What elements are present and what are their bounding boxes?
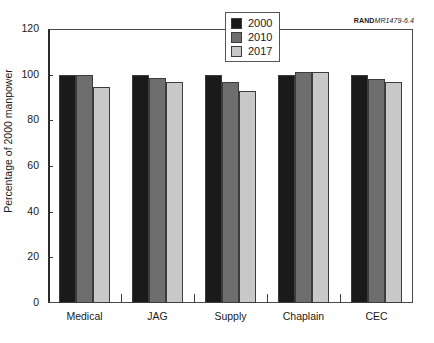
bar-chart-figure: RANDMR1479-6.4 Percentage of 2000 manpow… bbox=[0, 0, 434, 343]
x-axis-label: Supply bbox=[194, 310, 267, 322]
legend-swatch-2017 bbox=[231, 46, 242, 57]
bar bbox=[385, 82, 402, 303]
bar bbox=[368, 79, 385, 303]
x-axis-label: JAG bbox=[121, 310, 194, 322]
y-tick-label: 20 bbox=[27, 250, 39, 262]
legend-item: 2010 bbox=[231, 30, 272, 44]
rand-figure-number: MR1479-6.4 bbox=[374, 17, 414, 24]
bar bbox=[59, 75, 76, 303]
x-axis-label: Chaplain bbox=[267, 310, 340, 322]
legend-swatch-2010 bbox=[231, 32, 242, 43]
legend-item: 2000 bbox=[231, 16, 272, 30]
bar bbox=[205, 75, 222, 303]
x-axis-group-separator bbox=[267, 294, 268, 303]
bar-group bbox=[205, 29, 256, 303]
legend-label-2017: 2017 bbox=[248, 46, 272, 57]
legend-item: 2017 bbox=[231, 44, 272, 58]
bar-group bbox=[278, 29, 329, 303]
bar bbox=[76, 75, 93, 303]
bar bbox=[149, 78, 166, 303]
y-tick-label: 120 bbox=[21, 22, 39, 34]
bar bbox=[295, 72, 312, 303]
y-tick-label: 40 bbox=[27, 205, 39, 217]
y-axis-title: Percentage of 2000 manpower bbox=[2, 0, 14, 291]
bar bbox=[351, 75, 368, 303]
rand-source-credit: RANDMR1479-6.4 bbox=[354, 17, 414, 24]
bar bbox=[239, 91, 256, 303]
legend-swatch-2000 bbox=[231, 18, 242, 29]
bar-group bbox=[132, 29, 183, 303]
legend-label-2010: 2010 bbox=[248, 32, 272, 43]
x-axis-group-separator bbox=[340, 294, 341, 303]
bar bbox=[312, 72, 329, 303]
y-tick-label: 100 bbox=[21, 68, 39, 80]
y-tick-label: 80 bbox=[27, 113, 39, 125]
y-tick-label: 60 bbox=[27, 159, 39, 171]
bar-group bbox=[59, 29, 110, 303]
bars-layer bbox=[48, 29, 413, 303]
bar bbox=[132, 75, 149, 303]
bar-group bbox=[351, 29, 402, 303]
bar bbox=[222, 82, 239, 303]
x-axis-group-separator bbox=[121, 294, 122, 303]
y-tick-label: 0 bbox=[33, 296, 39, 308]
x-axis-label: Medical bbox=[48, 310, 121, 322]
bar bbox=[93, 87, 110, 303]
x-axis-label: CEC bbox=[340, 310, 413, 322]
bar bbox=[278, 75, 295, 303]
x-axis-group-separator bbox=[194, 294, 195, 303]
chart-legend: 2000 2010 2017 bbox=[225, 12, 280, 62]
legend-label-2000: 2000 bbox=[248, 18, 272, 29]
rand-logo-text: RAND bbox=[354, 17, 375, 24]
bar bbox=[166, 82, 183, 303]
